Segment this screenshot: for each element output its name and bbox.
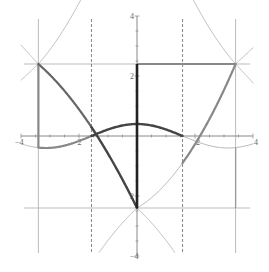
thick-arc-fall-upper: [38, 64, 91, 127]
y-tick-label: 2: [130, 72, 134, 81]
x-tick-label: 4: [254, 138, 258, 147]
x-tick-label: −4: [15, 138, 24, 147]
plot-area: −4−224422−4: [15, 0, 258, 261]
thin-arc-right-down: [236, 64, 253, 83]
thin-arc-rise-lower: [137, 163, 183, 208]
thin-arc-lower-left: [99, 208, 137, 252]
thick-arc-fall-lower: [91, 127, 137, 208]
y-tick-label: 4: [130, 12, 134, 21]
thin-arc-lower-right: [137, 208, 175, 252]
cosine-thick-left: [38, 136, 91, 148]
thin-arc-upper-left: [38, 0, 82, 64]
cosine-thin-left: [21, 144, 38, 148]
thin-arc-left-up: [21, 64, 38, 80]
y-tick-label: −4: [130, 252, 139, 261]
thin-arc-upper-right: [192, 0, 236, 64]
chart: −4−224422−4: [0, 0, 269, 272]
thin-arc-right-up: [236, 48, 253, 64]
thin-arc-left-down: [21, 45, 38, 64]
